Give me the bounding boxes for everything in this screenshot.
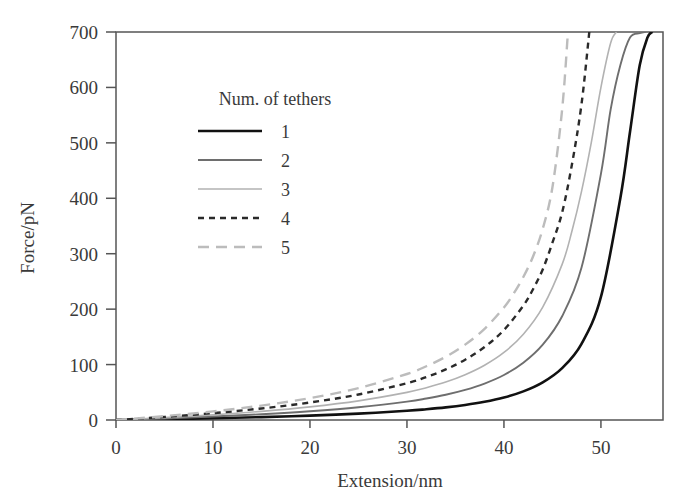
legend-label-3: 3 xyxy=(281,180,290,200)
x-tick-label-5: 50 xyxy=(591,437,610,458)
x-tick-label-4: 40 xyxy=(494,437,513,458)
y-tick-label-4: 400 xyxy=(70,188,99,209)
y-axis-title: Force/pN xyxy=(17,202,38,274)
y-tick-label-6: 600 xyxy=(70,77,99,98)
force-extension-chart: 01020304050 0100200300400500600700 Exten… xyxy=(0,0,700,502)
x-tick-label-3: 30 xyxy=(397,437,416,458)
x-tick-label-2: 20 xyxy=(300,437,319,458)
y-tick-label-5: 500 xyxy=(70,133,99,154)
x-tick-label-0: 0 xyxy=(111,437,121,458)
y-tick-label-0: 0 xyxy=(89,410,99,431)
legend-label-5: 5 xyxy=(281,238,290,258)
legend-label-2: 2 xyxy=(281,151,290,171)
y-tick-label-1: 100 xyxy=(70,355,99,376)
figure-container: 01020304050 0100200300400500600700 Exten… xyxy=(0,0,700,502)
y-tick-label-3: 300 xyxy=(70,244,99,265)
chart-background xyxy=(0,0,700,502)
legend-label-1: 1 xyxy=(281,122,290,142)
y-tick-label-2: 200 xyxy=(70,299,99,320)
legend-label-4: 4 xyxy=(281,209,290,229)
y-tick-label-7: 700 xyxy=(70,22,99,43)
legend-title: Num. of tethers xyxy=(219,89,331,109)
x-tick-label-1: 10 xyxy=(203,437,222,458)
x-axis-title: Extension/nm xyxy=(337,470,443,491)
